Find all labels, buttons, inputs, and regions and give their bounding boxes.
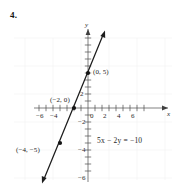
x-tick-label-6: 6 (131, 112, 135, 120)
x-tick-label-4: 4 (117, 112, 121, 120)
y-tick-label-neg6: −6 (78, 174, 86, 182)
point-third (58, 141, 62, 145)
y-axis (85, 29, 91, 182)
y-axis-label: y (85, 21, 88, 29)
point-label-third-point: (−4, −5) (16, 146, 40, 154)
point-y-intercept (86, 71, 90, 75)
x-tick-label-neg6: −6 (36, 112, 44, 120)
x-tick-label-2: 2 (103, 112, 107, 120)
coordinate-plane-graphic (0, 0, 178, 195)
x-axis (34, 105, 168, 111)
point-label-y-intercept: (0, 5) (93, 68, 109, 76)
y-tick-label-neg4: −4 (78, 146, 86, 154)
y-tick-label-neg2: −2 (78, 118, 86, 126)
equation-annotation: 5x − 2y = −10 (97, 136, 142, 145)
y-tick-label-2: 2 (80, 90, 84, 98)
graph-figure: 4. (0, 0, 178, 195)
point-label-x-intercept: (−2, 0) (50, 96, 70, 104)
point-x-intercept (72, 106, 76, 110)
x-tick-label-neg4: −4 (50, 112, 58, 120)
x-axis-label: x (167, 110, 170, 118)
x-tick-label-zero: 0 (90, 112, 94, 120)
